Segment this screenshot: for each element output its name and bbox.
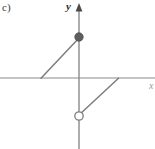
graph-figure: c) y x — [0, 0, 155, 149]
open-point-marker — [75, 112, 83, 120]
left-segment — [41, 38, 79, 78]
y-axis-arrowhead — [76, 3, 83, 12]
right-segment — [79, 78, 119, 115]
filled-point-marker — [75, 33, 83, 41]
plot-area — [0, 0, 155, 149]
